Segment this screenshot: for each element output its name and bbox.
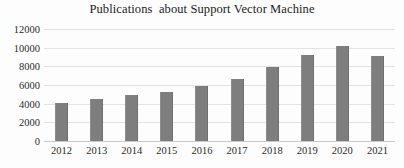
bar[interactable] <box>266 67 279 141</box>
x-axis-tick-label: 2014 <box>115 145 149 156</box>
chart-title: Publications about Support Vector Machin… <box>0 2 404 17</box>
x-axis-tick-label: 2021 <box>360 145 394 156</box>
x-axis-tick-label: 2018 <box>255 145 289 156</box>
x-axis-tick-label: 2020 <box>325 145 359 156</box>
y-axis-tick-label: 12000 <box>0 24 40 35</box>
bar[interactable] <box>371 56 384 141</box>
gridline <box>44 141 395 142</box>
bar[interactable] <box>301 55 314 141</box>
x-axis-tick-label: 2016 <box>185 145 219 156</box>
x-axis-tick-label: 2015 <box>150 145 184 156</box>
bar[interactable] <box>231 79 244 141</box>
bar[interactable] <box>55 103 68 141</box>
y-axis-tick-label: 2000 <box>0 117 40 128</box>
y-axis-tick-label: 10000 <box>0 42 40 53</box>
bar-chart: Publications about Support Vector Machin… <box>0 0 404 168</box>
y-axis-tick-label: 0 <box>0 136 40 147</box>
bar[interactable] <box>160 92 173 141</box>
y-axis-tick-labels: 120001000080006000400020000 <box>0 29 40 141</box>
y-axis-tick-label: 6000 <box>0 80 40 91</box>
bar[interactable] <box>336 46 349 141</box>
x-axis-tick-label: 2013 <box>80 145 114 156</box>
x-axis-tick-labels: 2012201320142015201620172018201920202021 <box>44 145 395 165</box>
y-axis-tick-label: 8000 <box>0 61 40 72</box>
bar[interactable] <box>195 86 208 141</box>
bars-layer <box>44 29 395 141</box>
y-axis-tick-label: 4000 <box>0 98 40 109</box>
bar[interactable] <box>90 99 103 141</box>
x-axis-tick-label: 2017 <box>220 145 254 156</box>
x-axis-tick-label: 2019 <box>290 145 324 156</box>
bar[interactable] <box>125 95 138 141</box>
x-axis-tick-label: 2012 <box>45 145 79 156</box>
